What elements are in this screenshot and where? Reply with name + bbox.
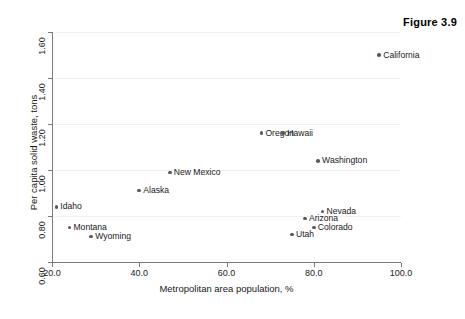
data-point-label: Washington	[322, 155, 367, 165]
x-tick-label: 60.0	[207, 268, 247, 278]
figure-container: Figure 3.9 0.600.801.001.201.401.60 20.0…	[0, 0, 465, 319]
gridline-horizontal	[53, 32, 401, 33]
data-point	[55, 205, 59, 209]
data-point-label: Hawaii	[287, 128, 313, 138]
data-point	[281, 131, 285, 135]
data-point-label: California	[383, 50, 419, 60]
data-point	[303, 217, 307, 221]
x-tick-label: 40.0	[119, 268, 159, 278]
y-axis-title: Per capita solid waste, tons	[28, 53, 39, 253]
scatter-plot: 0.600.801.001.201.401.60 20.040.060.080.…	[0, 0, 465, 319]
data-point	[316, 159, 320, 163]
y-tick-mark	[48, 216, 52, 217]
gridline-horizontal	[53, 170, 401, 171]
x-tick-mark	[139, 263, 140, 267]
data-point-label: Colorado	[318, 222, 353, 232]
data-point	[68, 226, 72, 230]
y-tick-mark	[48, 78, 52, 79]
x-tick-mark	[227, 263, 228, 267]
data-point	[168, 171, 172, 175]
y-tick-mark	[48, 124, 52, 125]
gridline-horizontal	[53, 78, 401, 79]
data-point-label: Alaska	[143, 185, 169, 195]
data-point	[89, 235, 93, 239]
y-tick-label: 1.40	[37, 77, 47, 107]
x-tick-label: 100.0	[381, 268, 421, 278]
y-tick-label: 1.20	[37, 123, 47, 153]
data-point	[377, 53, 381, 57]
y-axis-line	[52, 32, 53, 263]
data-point-label: New Mexico	[174, 167, 221, 177]
data-point-label: Utah	[296, 229, 314, 239]
y-tick-mark	[48, 170, 52, 171]
y-tick-label: 1.60	[37, 31, 47, 61]
x-tick-mark	[401, 263, 402, 267]
x-tick-label: 20.0	[32, 268, 72, 278]
data-point-label: Idaho	[60, 201, 82, 211]
x-axis-title: Metropolitan area population, %	[52, 283, 401, 294]
gridline-horizontal	[53, 216, 401, 217]
data-point	[290, 233, 294, 237]
data-point	[260, 131, 264, 135]
y-tick-label: 1.00	[37, 169, 47, 199]
data-point	[137, 189, 141, 193]
y-tick-label: 0.80	[37, 215, 47, 245]
x-tick-mark	[52, 263, 53, 267]
gridline-horizontal	[53, 124, 401, 125]
x-tick-label: 80.0	[294, 268, 334, 278]
y-tick-mark	[48, 32, 52, 33]
data-point-label: Wyoming	[95, 231, 131, 241]
x-tick-mark	[314, 263, 315, 267]
